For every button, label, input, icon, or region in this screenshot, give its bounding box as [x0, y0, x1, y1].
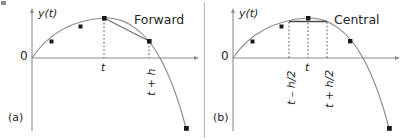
panel-a: y(t) 0 Forward t t + h (a) — [0, 0, 205, 140]
panel-b: y(t) 0 Central t – h/2 t t + h/2 (b) — [205, 0, 410, 140]
data-point — [251, 40, 255, 44]
x-axis-arrowhead — [395, 56, 400, 60]
y-axis-arrowhead — [231, 8, 235, 13]
y-axis-arrowhead — [30, 8, 34, 13]
finite-difference-figure: y(t) 0 Forward t t + h (a) — [0, 0, 410, 140]
data-point — [387, 126, 392, 131]
tick-label-t-plus-h: t + h — [146, 69, 157, 97]
trajectory-curve — [32, 18, 186, 128]
data-point — [306, 16, 310, 20]
panel-label-b: (b) — [213, 112, 229, 123]
y-axis-label: y(t) — [239, 8, 258, 19]
origin-label: 0 — [20, 50, 28, 62]
data-point — [79, 25, 83, 29]
data-point — [102, 16, 107, 21]
method-label-central: Central — [334, 14, 380, 27]
trajectory-curve — [233, 18, 389, 128]
data-point — [280, 25, 284, 29]
y-axis-label: y(t) — [38, 8, 57, 19]
tick-label-t: t — [305, 62, 309, 73]
method-label-forward: Forward — [134, 14, 184, 27]
data-point — [50, 40, 54, 44]
data-point — [147, 39, 152, 44]
panel-label-a: (a) — [8, 112, 23, 123]
origin-label: 0 — [221, 50, 229, 62]
tick-label-t-plus-h-over-2: t + h/2 — [324, 70, 335, 108]
tick-label-t-minus-h-over-2: t – h/2 — [286, 71, 297, 105]
tick-label-t: t — [101, 62, 105, 73]
data-point — [184, 126, 189, 131]
data-point — [348, 39, 352, 43]
x-axis-arrowhead — [194, 56, 199, 60]
